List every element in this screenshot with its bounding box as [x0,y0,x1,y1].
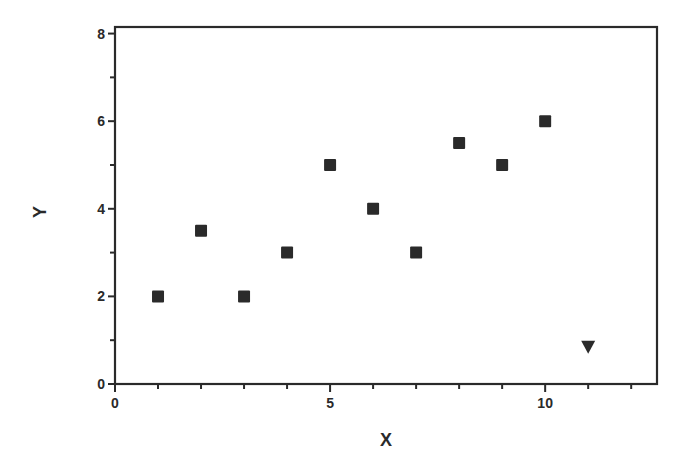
y-tick-label: 8 [97,26,105,42]
y-tick-label: 4 [97,201,105,217]
square-marker [410,247,422,259]
square-marker [539,115,551,127]
square-marker [453,137,465,149]
square-marker [195,225,207,237]
y-tick-label: 2 [97,288,105,304]
triangle-down-marker [581,341,595,354]
x-tick-label: 10 [537,395,553,411]
square-marker [238,290,250,302]
x-axis-title: X [380,430,392,450]
square-marker [496,159,508,171]
y-axis-ticks: 02468 [97,26,115,392]
square-marker [152,290,164,302]
scatter-chart: 0510 02468 X Y [0,0,678,467]
y-tick-label: 6 [97,113,105,129]
y-tick-label: 0 [97,376,105,392]
x-axis-ticks: 0510 [111,384,631,411]
y-axis-title: Y [30,206,50,218]
square-marker [324,159,336,171]
square-marker [281,247,293,259]
square-marker [367,203,379,215]
x-tick-label: 5 [326,395,334,411]
plot-border [115,27,657,384]
data-points [152,115,595,354]
x-tick-label: 0 [111,395,119,411]
plot-frame [115,27,657,384]
